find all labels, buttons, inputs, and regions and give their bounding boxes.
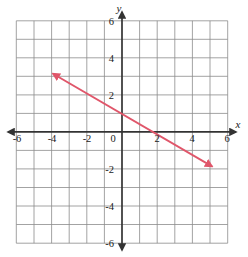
y-tick-label--6: -6 — [105, 238, 114, 249]
graph-figure: x y -6 -4 -2 2 4 6 0 6 4 2 -2 -4 -6 — [0, 0, 248, 257]
y-tick-label-4: 4 — [109, 53, 115, 64]
y-tick-label-6: 6 — [109, 16, 114, 27]
y-tick-label--4: -4 — [105, 201, 114, 212]
x-tick-label--4: -4 — [48, 133, 57, 144]
y-tick-label--2: -2 — [105, 164, 114, 175]
x-tick-label-6: 6 — [224, 133, 229, 144]
x-tick-label-4: 4 — [189, 133, 195, 144]
y-tick-label-2: 2 — [109, 90, 114, 101]
coordinate-plane: x y -6 -4 -2 2 4 6 0 6 4 2 -2 -4 -6 — [0, 0, 248, 257]
plotted-line — [53, 74, 212, 167]
x-tick-label--2: -2 — [83, 133, 92, 144]
x-tick-label-2: 2 — [154, 133, 159, 144]
x-axis-label: x — [235, 118, 241, 130]
y-axis-label: y — [116, 2, 122, 14]
origin-label: 0 — [110, 133, 115, 144]
x-tick-label--6: -6 — [13, 133, 22, 144]
